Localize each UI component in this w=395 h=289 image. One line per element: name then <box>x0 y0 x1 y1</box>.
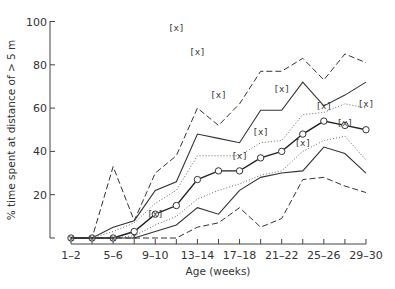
median-circle-marker <box>215 168 221 174</box>
series-solid <box>71 147 366 238</box>
x-marker: [x] <box>231 151 247 161</box>
x-marker: [x] <box>274 84 290 94</box>
median-circle-marker <box>236 168 242 174</box>
x-marker: [x] <box>147 209 163 219</box>
x-axis-label: Age (weeks) <box>186 265 251 277</box>
x-marker: [x] <box>210 90 226 100</box>
y-axis-label: % time spent at distance of > 5 m <box>5 40 17 221</box>
median-circle-marker <box>173 202 179 208</box>
y-tick-label: 20 <box>33 189 47 202</box>
x-tick-label: 1–2 <box>61 249 81 262</box>
line-chart: 20406080100 1–25–69–1013–1417–1821–2225–… <box>0 0 395 289</box>
median-circle-marker <box>257 155 263 161</box>
median-circle-marker <box>194 176 200 182</box>
series-dashed <box>71 54 366 238</box>
x-marker: [x] <box>337 118 353 128</box>
x-marker: x <box>68 233 74 243</box>
y-tick-label: 60 <box>33 102 47 115</box>
x-tick-label: 13–14 <box>181 249 215 262</box>
median-circle-marker <box>321 118 327 124</box>
median-circle-marker <box>279 148 285 154</box>
x-marker: [x] <box>252 127 268 137</box>
x-tick-label: 25–26 <box>307 249 341 262</box>
x-tick-label: 17–18 <box>223 249 257 262</box>
y-tick-label: 40 <box>33 145 47 158</box>
series-dashed <box>71 177 366 238</box>
x-marker: x <box>110 233 116 243</box>
y-ticks: 20406080100 <box>26 16 55 202</box>
x-marker: [x] <box>168 23 184 33</box>
x-marker: [x] <box>358 99 374 109</box>
y-tick-label: 100 <box>26 16 47 29</box>
x-marker: x <box>131 231 137 241</box>
x-marker: [x] <box>316 101 332 111</box>
x-tick-label: 9–10 <box>142 249 169 262</box>
series-lines <box>68 54 369 241</box>
x-marker: x <box>89 233 95 243</box>
y-tick-label: 80 <box>33 59 47 72</box>
median-circle-marker <box>300 131 306 137</box>
x-marker: [x] <box>189 47 205 57</box>
x-tick-label: 29–30 <box>349 249 383 262</box>
median-circle-marker <box>363 127 369 133</box>
x-tick-label: 21–22 <box>265 249 299 262</box>
x-tick-label: 5–6 <box>103 249 123 262</box>
series-dotted <box>71 136 366 238</box>
x-marker: [x] <box>295 138 311 148</box>
x-markers: xxxx[x][x][x][x][x][x][x][x][x][x][x] <box>68 23 374 243</box>
